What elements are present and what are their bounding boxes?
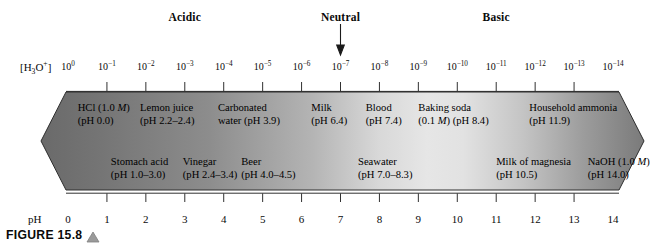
substance-lower-seawater-line2: (pH 7.0–8.3)	[358, 169, 412, 182]
substance-upper-milk-line1: Milk	[311, 102, 332, 113]
substance-upper-HCl: HCl (1.0 M)(pH 0.0)	[78, 102, 130, 127]
ph-tick-2: 2	[143, 213, 149, 225]
substance-upper-household-ammonia: Household ammonia(pH 11.9)	[529, 102, 617, 127]
ph-axis-ticks	[0, 192, 660, 208]
substance-upper-household-ammonia-line1: Household ammonia	[529, 102, 617, 113]
substance-upper-lemon-juice-line1: Lemon juice	[140, 102, 193, 113]
concentration-axis-title: [H3O+]	[20, 59, 51, 76]
substance-lower-beer-line1: Beer	[241, 156, 261, 167]
substance-upper-carbonated-water-line2: water (pH 3.9)	[218, 115, 280, 128]
substance-upper-HCl-line2: (pH 0.0)	[78, 115, 130, 128]
substance-upper-household-ammonia-line2: (pH 11.9)	[529, 115, 617, 128]
zone-label-neutral: Neutral	[321, 11, 360, 23]
zone-label-acidic: Acidic	[169, 11, 202, 23]
concentration-axis-ticks	[0, 78, 660, 92]
substance-lower-milk-of-magnesia-line2: (pH 10.5)	[496, 169, 571, 182]
substance-lower-beer: Beer(pH 4.0–4.5)	[241, 156, 295, 181]
concentration-tick-13: 10−13	[563, 61, 584, 72]
zone-label-basic: Basic	[483, 11, 510, 23]
concentration-tick-3: 10−3	[176, 61, 194, 72]
concentration-tick-14: 10−14	[602, 61, 623, 72]
substance-lower-stomach-acid-line1: Stomach acid	[111, 156, 168, 167]
substance-upper-baking-soda-line2: (0.1 M) (pH 8.4)	[418, 115, 488, 128]
ph-tick-4: 4	[221, 213, 227, 225]
concentration-tick-7: 10−7	[332, 61, 350, 72]
concentration-tick-11: 10−11	[486, 61, 507, 72]
substance-upper-carbonated-water: Carbonatedwater (pH 3.9)	[218, 102, 280, 127]
ph-tick-14: 14	[608, 213, 619, 225]
substance-upper-milk: Milk(pH 6.4)	[311, 102, 347, 127]
substance-upper-blood: Blood(pH 7.4)	[366, 102, 402, 127]
substance-lower-vinegar: Vinegar(pH 2.4–3.4)	[183, 156, 237, 181]
substance-upper-baking-soda-line1: Baking soda	[418, 102, 471, 113]
substance-lower-beer-line2: (pH 4.0–4.5)	[241, 169, 295, 182]
substance-upper-lemon-juice: Lemon juice(pH 2.2–2.4)	[140, 102, 194, 127]
substance-upper-blood-line1: Blood	[366, 102, 392, 113]
concentration-tick-6: 10−6	[293, 61, 311, 72]
concentration-tick-4: 10−4	[215, 61, 233, 72]
ph-tick-7: 7	[338, 213, 344, 225]
concentration-tick-5: 10−5	[254, 61, 272, 72]
substance-lower-milk-of-magnesia: Milk of magnesia(pH 10.5)	[496, 156, 571, 181]
concentration-tick-2: 10−2	[137, 61, 155, 72]
concentration-tick-10: 10−10	[447, 61, 468, 72]
substance-lower-naoh-line1: NaOH (1.0 M)	[588, 156, 650, 167]
ph-axis-title: pH	[28, 213, 41, 225]
substance-lower-seawater: Seawater(pH 7.0–8.3)	[358, 156, 412, 181]
substance-upper-milk-line2: (pH 6.4)	[311, 115, 347, 128]
ph-tick-0: 0	[65, 213, 71, 225]
ph-tick-13: 13	[569, 213, 580, 225]
figure-caption: FIGURE 15.8	[6, 228, 82, 242]
concentration-tick-1: 10−1	[98, 61, 116, 72]
concentration-tick-0: 100	[61, 61, 75, 72]
substance-lower-naoh-line2: (pH 14.0)	[588, 169, 650, 182]
ph-tick-5: 5	[260, 213, 266, 225]
substance-upper-HCl-line1: HCl (1.0 M)	[78, 102, 130, 113]
concentration-tick-8: 10−8	[371, 61, 389, 72]
substance-upper-blood-line2: (pH 7.4)	[366, 115, 402, 128]
concentration-tick-9: 10−9	[410, 61, 428, 72]
ph-tick-9: 9	[416, 213, 422, 225]
triangle-up-icon	[86, 231, 100, 243]
ph-scale-figure: Acidic Neutral Basic [H3O+] 10010−110−21…	[0, 0, 660, 246]
substance-lower-stomach-acid-line2: (pH 1.0–3.0)	[111, 169, 168, 182]
substance-lower-vinegar-line2: (pH 2.4–3.4)	[183, 169, 237, 182]
substance-lower-vinegar-line1: Vinegar	[183, 156, 216, 167]
ph-tick-6: 6	[299, 213, 305, 225]
substance-lower-milk-of-magnesia-line1: Milk of magnesia	[496, 156, 571, 167]
substance-lower-seawater-line1: Seawater	[358, 156, 397, 167]
ph-tick-3: 3	[182, 213, 188, 225]
ph-tick-1: 1	[104, 213, 110, 225]
ph-tick-8: 8	[377, 213, 383, 225]
substance-upper-carbonated-water-line1: Carbonated	[218, 102, 267, 113]
ph-tick-10: 10	[452, 213, 463, 225]
substance-upper-lemon-juice-line2: (pH 2.2–2.4)	[140, 115, 194, 128]
substance-upper-baking-soda: Baking soda(0.1 M) (pH 8.4)	[418, 102, 488, 127]
substance-lower-naoh: NaOH (1.0 M)(pH 14.0)	[588, 156, 650, 181]
ph-tick-12: 12	[530, 213, 541, 225]
substance-lower-stomach-acid: Stomach acid(pH 1.0–3.0)	[111, 156, 168, 181]
concentration-tick-12: 10−12	[525, 61, 546, 72]
ph-tick-11: 11	[491, 213, 502, 225]
